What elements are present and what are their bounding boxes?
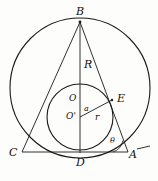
geometry-figure: B R O O' a r E θ C D A	[0, 0, 158, 181]
tick-mark	[137, 146, 150, 149]
segment-ba	[80, 22, 128, 152]
label-segment-a: a	[84, 105, 89, 113]
label-point-e: E	[117, 93, 125, 104]
label-angle-theta: θ	[110, 137, 115, 145]
vertex-dot-b	[79, 21, 82, 24]
label-vertex-a: A	[129, 149, 137, 160]
label-inradius-r: r	[95, 113, 99, 122]
label-point-d: D	[76, 157, 85, 168]
vertex-dot-e	[111, 99, 113, 101]
label-center-o: O	[69, 94, 76, 103]
label-center-o-prime: O'	[66, 112, 76, 121]
label-vertex-c: C	[9, 147, 17, 158]
label-vertex-b: B	[76, 6, 84, 17]
label-circumradius-r: R	[84, 59, 92, 70]
